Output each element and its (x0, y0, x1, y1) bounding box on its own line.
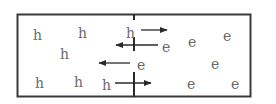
hole-label: h (126, 25, 135, 41)
electron-label: e (137, 57, 145, 73)
electron-label: e (211, 56, 219, 72)
electron-label: e (231, 76, 239, 92)
hole-label: h (35, 75, 44, 91)
electron-label: e (223, 28, 231, 44)
electrons-group: e e e e e e e (137, 28, 239, 92)
electron-label: e (188, 34, 196, 50)
electron-label: e (162, 39, 170, 55)
hole-label: h (102, 77, 111, 93)
hole-label: h (78, 25, 87, 41)
hole-label: h (74, 74, 83, 90)
pn-junction-diagram: h h h h h h h e e e e e e e (0, 0, 276, 104)
hole-label: h (60, 46, 69, 62)
electron-label: e (187, 76, 195, 92)
hole-label: h (33, 27, 42, 43)
